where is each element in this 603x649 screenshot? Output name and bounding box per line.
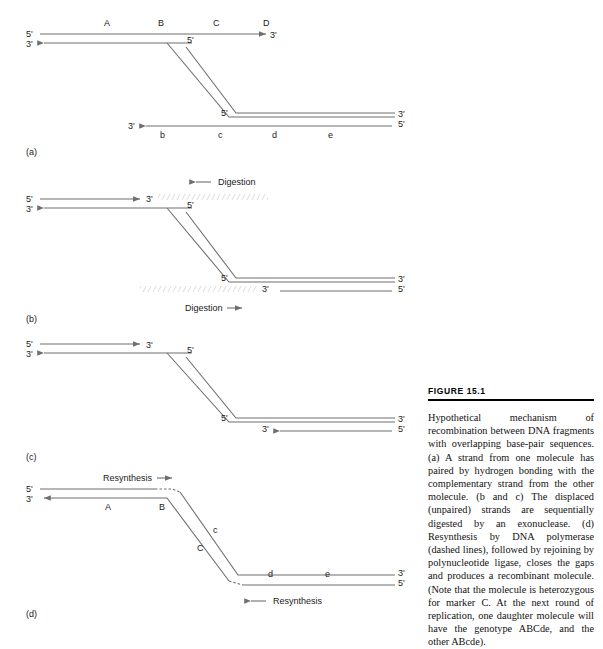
caption-divider [428,399,594,401]
label-3prime: 3' [26,204,33,214]
label-3prime-bottom-right: 3' [398,414,405,424]
marker-A: A [105,502,111,512]
figure-caption-text: Hypothetical mechanism of recombination … [428,411,594,649]
panel-b-diagram: Digestion Digestion 5' 3' 3' 5' 5' 3' 3'… [0,165,420,330]
label-3prime: 3' [26,349,33,359]
label-3prime-right: 3' [270,30,277,40]
marker-B: B [159,502,165,512]
label-3prime-mid: 3' [146,340,153,350]
label-5prime-bottom-right: 5' [398,119,405,129]
label-5prime: 5' [26,484,33,494]
label-5prime-junction-upper: 5' [187,345,194,355]
panel-key-a: (a) [26,147,37,157]
marker-b: b [160,130,165,140]
panel-key-d: (d) [26,609,37,619]
label-5prime-bottom-right: 5' [398,284,405,294]
label-5prime-junction-lower: 5' [221,413,228,423]
label-3prime-bottom-right: 3' [398,109,405,119]
resynthesis-label-top: Resynthesis [103,473,153,483]
label-5prime-bottom-right: 5' [398,424,405,434]
marker-D: D [263,18,270,28]
panel-key-b: (b) [26,314,37,324]
marker-d: d [272,130,277,140]
panel-c-diagram: 5' 3' 3' 5' 5' 3' 3' 5' (c) [0,330,420,470]
marker-d: d [268,569,273,579]
label-5prime-junction-lower: 5' [221,108,228,118]
label-5prime: 5' [26,339,33,349]
label-3prime-bottom-left: 3' [128,121,135,131]
marker-C: C [197,543,204,553]
marker-c: c [213,525,218,535]
label-3prime-right: 3' [398,568,405,578]
digested-region-top [158,194,268,200]
figure-number-label: FIGURE 15.1 [428,386,594,396]
marker-B: B [158,18,164,28]
digestion-label-top: Digestion [218,177,256,187]
marker-e: e [325,569,330,579]
marker-C: C [213,18,220,28]
panel-key-c: (c) [26,452,37,462]
figure-caption-block: FIGURE 15.1 Hypothetical mechanism of re… [428,386,594,649]
label-3prime: 3' [26,494,33,504]
label-3prime: 3' [26,39,33,49]
label-3prime-mid: 3' [146,194,153,204]
label-5prime-junction-upper: 5' [187,35,194,45]
digested-region-bottom [140,286,258,292]
label-5prime-right: 5' [398,578,405,588]
label-3prime-mid-bottom: 3' [262,284,269,294]
label-3prime-bottom-right: 3' [398,274,405,284]
label-5prime: 5' [26,29,33,39]
digestion-label-bottom: Digestion [185,303,223,313]
label-3prime-mid-bottom: 3' [262,424,269,434]
marker-e: e [328,130,333,140]
resynthesis-label-bottom: Resynthesis [273,596,323,606]
label-5prime-junction-lower: 5' [221,273,228,283]
label-5prime: 5' [26,194,33,204]
marker-A: A [104,18,110,28]
panel-d-diagram: Resynthesis Resynthesis 5' 3' 3' 5' A B … [0,465,420,644]
label-5prime-junction-upper: 5' [187,200,194,210]
marker-c: c [218,130,223,140]
panel-a-diagram: 5' 3' 3' 5' 5' 3' 3' 5' A B C D b c d e … [0,0,420,165]
